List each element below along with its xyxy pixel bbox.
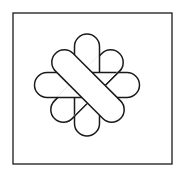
knot-figure: [0, 0, 181, 174]
capsule-group: [35, 34, 140, 136]
